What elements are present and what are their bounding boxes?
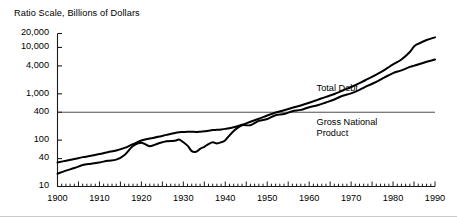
x-axis-label-1930: 1930 (163, 193, 203, 203)
series-label-gnp-line1: Gross National (317, 117, 378, 128)
y-axis-label-400: 400 (5, 106, 49, 116)
x-axis-label-1990: 1990 (415, 193, 455, 203)
x-axis-label-1960: 1960 (289, 193, 329, 203)
x-axis-label-1900: 1900 (38, 193, 78, 203)
x-axis-label-1910: 1910 (79, 193, 119, 203)
axis-spine (58, 34, 436, 187)
x-axis-label-1940: 1940 (205, 193, 245, 203)
chart-root: Ratio Scale, Billions of Dollars Total D… (0, 0, 457, 219)
y-axis-label-100: 100 (5, 134, 49, 144)
bottom-divider-rule (0, 216, 457, 217)
y-axis-label-4000: 4,000 (5, 60, 49, 70)
y-axis-label-10: 10 (5, 180, 49, 190)
x-axis-label-1920: 1920 (121, 193, 161, 203)
x-axis-label-1980: 1980 (373, 193, 413, 203)
y-axis-label-20000: 20,000 (5, 27, 49, 37)
y-axis-label-1000: 1,000 (5, 88, 49, 98)
x-axis-label-1950: 1950 (247, 193, 287, 203)
series-line-total-debt (58, 37, 436, 162)
chart-plot-area (0, 0, 457, 219)
series-label-total-debt: Total Debt (317, 83, 358, 94)
y-axis-label-40: 40 (5, 152, 49, 162)
series-label-gnp-line2: Product (317, 128, 349, 139)
y-axis-label-10000: 10,000 (5, 41, 49, 51)
x-axis-label-1970: 1970 (331, 193, 371, 203)
series-line-gross-national-product (58, 59, 436, 173)
